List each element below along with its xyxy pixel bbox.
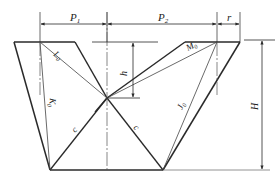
label-h: h	[118, 71, 129, 76]
diagram-canvas: P1 P2 r h H L0 M0 K0 J0 c c	[0, 0, 278, 173]
label-P2: P2	[157, 11, 169, 25]
label-K0: K0	[46, 97, 58, 108]
construction-lines	[40, 42, 217, 170]
label-J0: J0	[175, 100, 188, 111]
label-c-right: c	[132, 122, 142, 132]
left-trapezoid	[14, 42, 107, 170]
label-r: r	[227, 11, 232, 23]
trapezoid-diagram: P1 P2 r h H L0 M0 K0 J0 c c	[0, 0, 278, 173]
label-c-left: c	[69, 125, 79, 135]
c-lines	[50, 98, 163, 170]
centerlines	[40, 12, 217, 170]
right-trapezoid	[107, 42, 240, 170]
label-H: H	[249, 102, 260, 111]
label-P1: P1	[69, 11, 80, 25]
